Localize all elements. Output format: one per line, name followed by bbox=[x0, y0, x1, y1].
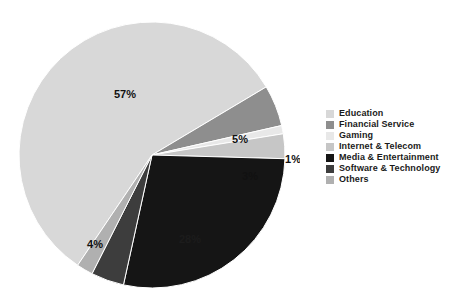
legend-item[interactable]: Education bbox=[326, 108, 466, 119]
legend-item-label: Education bbox=[339, 108, 383, 119]
pie-slice-value-label: 4% bbox=[87, 238, 103, 250]
pie-slice-value-label: 1% bbox=[285, 153, 300, 165]
pie-slice-value-label: 5% bbox=[232, 133, 248, 145]
legend-item-label: Financial Service bbox=[339, 119, 414, 130]
legend-swatch-icon bbox=[326, 132, 334, 140]
legend-item[interactable]: Software & Technology bbox=[326, 163, 466, 174]
pie-slice-value-label: 57% bbox=[114, 88, 136, 100]
pie-plot-area: 57%5%1%3%28%4% bbox=[0, 8, 300, 305]
legend-item-label: Others bbox=[339, 174, 369, 185]
legend-item[interactable]: Financial Service bbox=[326, 119, 466, 130]
legend-swatch-icon bbox=[326, 143, 334, 151]
legend-item[interactable]: Media & Entertainment bbox=[326, 152, 466, 163]
cropped-title-artifact bbox=[70, 0, 270, 7]
pie-slice-value-label: 3% bbox=[242, 170, 258, 182]
legend-swatch-icon bbox=[326, 165, 334, 173]
chart-legend: EducationFinancial ServiceGamingInternet… bbox=[326, 108, 466, 185]
legend-item[interactable]: Gaming bbox=[326, 130, 466, 141]
legend-swatch-icon bbox=[326, 176, 334, 184]
pie-svg: 57%5%1%3%28%4% bbox=[0, 8, 300, 305]
pie-chart-figure: 57%5%1%3%28%4% EducationFinancial Servic… bbox=[0, 0, 471, 305]
legend-swatch-icon bbox=[326, 154, 334, 162]
legend-swatch-icon bbox=[326, 110, 334, 118]
pie-slice-value-label: 28% bbox=[179, 233, 201, 245]
legend-item[interactable]: Others bbox=[326, 174, 466, 185]
legend-item-label: Software & Technology bbox=[339, 163, 440, 174]
pie-slice-group bbox=[19, 22, 285, 288]
legend-item-label: Gaming bbox=[339, 130, 373, 141]
legend-item[interactable]: Internet & Telecom bbox=[326, 141, 466, 152]
legend-item-label: Internet & Telecom bbox=[339, 141, 421, 152]
legend-item-label: Media & Entertainment bbox=[339, 152, 439, 163]
legend-swatch-icon bbox=[326, 121, 334, 129]
